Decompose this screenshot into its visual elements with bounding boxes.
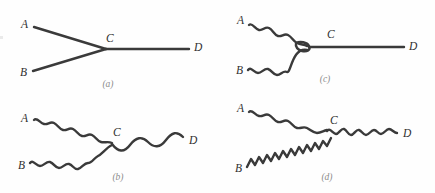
panel-b-leg-A-to-C xyxy=(34,119,112,143)
panel-d-leg-A-to-C xyxy=(249,111,327,133)
panel-d-label-D: D xyxy=(402,127,412,139)
panel-b-label-B: B xyxy=(18,159,25,171)
panel-b-caption: (b) xyxy=(112,172,123,183)
panel-c: A B C D (c) xyxy=(236,14,418,85)
panel-a-label-A: A xyxy=(20,18,29,30)
panel-c-label-A: A xyxy=(236,14,245,26)
panel-a-label-D: D xyxy=(193,41,203,53)
panel-d-label-A: A xyxy=(236,102,245,114)
left-edge-artifact xyxy=(0,36,3,39)
panel-a-caption: (a) xyxy=(102,79,113,90)
panel-d-label-B: B xyxy=(235,162,242,174)
panel-c-caption: (c) xyxy=(320,74,331,85)
panel-b-leg-B-to-C xyxy=(30,145,112,169)
panel-a-label-B: B xyxy=(20,66,27,78)
panel-a-label-C: C xyxy=(106,32,114,44)
panel-d: A B C D (d) xyxy=(235,102,412,183)
panel-a-leg-B-to-C xyxy=(33,49,106,71)
panel-c-label-D: D xyxy=(408,40,418,52)
figure-root: A B C D (a) A B C D (c) A B C D (b) xyxy=(0,0,435,193)
panel-b: A B C D (b) xyxy=(18,112,198,183)
panel-b-label-A: A xyxy=(20,112,29,124)
panel-b-label-C: C xyxy=(113,126,121,138)
panel-a-leg-A-to-C xyxy=(34,27,106,49)
panel-d-leg-B-to-C xyxy=(247,138,331,167)
panel-c-label-C: C xyxy=(327,28,335,40)
panel-c-label-B: B xyxy=(236,64,243,76)
panel-b-leg-C-to-D xyxy=(112,133,183,150)
four-panel-diagram: A B C D (a) A B C D (c) A B C D (b) xyxy=(0,0,435,193)
panel-d-caption: (d) xyxy=(321,172,332,183)
panel-c-leg-B-to-C xyxy=(248,50,307,75)
panel-a: A B C D (a) xyxy=(20,18,203,90)
panel-d-label-C: C xyxy=(330,114,338,126)
panel-d-leg-C-to-D xyxy=(327,129,397,135)
panel-b-label-D: D xyxy=(188,134,198,146)
